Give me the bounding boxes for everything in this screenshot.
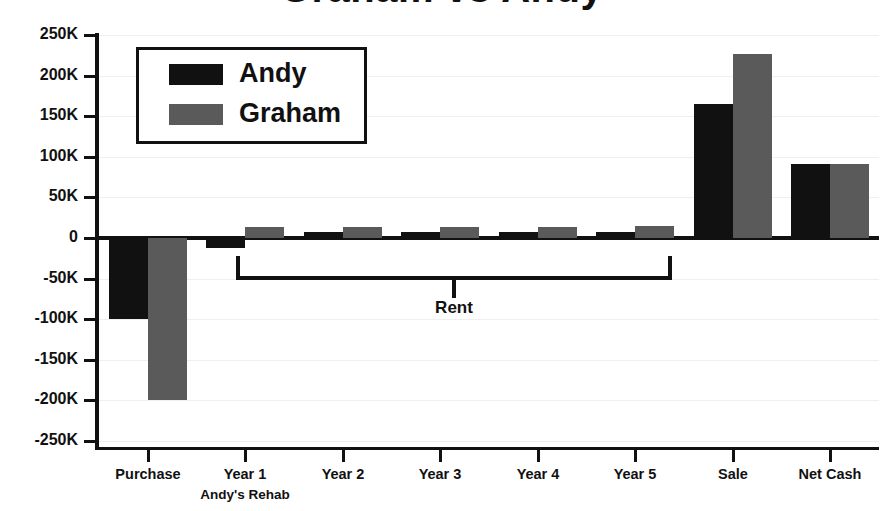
x-axis-label-year-3: Year 3 <box>419 466 462 482</box>
legend-swatch-icon-graham <box>169 104 223 125</box>
x-axis-tick <box>244 447 247 462</box>
x-axis-tick <box>634 447 637 462</box>
legend-label-graham: Graham <box>239 98 341 129</box>
x-axis-label-year-4: Year 4 <box>517 466 560 482</box>
x-axis-tick <box>829 447 832 462</box>
rent-bracket-stem <box>452 276 456 298</box>
rent-annotation-label: Rent <box>435 298 473 318</box>
x-axis-tick <box>537 447 540 462</box>
y-axis-tick-label: -50K <box>2 269 78 287</box>
bar-andy-purchase <box>109 238 148 319</box>
x-axis-tick <box>147 447 150 462</box>
bar-graham-year-2 <box>343 227 382 238</box>
bar-andy-year-3 <box>401 232 440 238</box>
x-axis-label-year-2: Year 2 <box>322 466 365 482</box>
y-axis-line <box>95 33 99 450</box>
gridline <box>99 400 879 401</box>
y-axis-tick-label: 100K <box>2 147 78 165</box>
bar-andy-net-cash <box>791 164 830 238</box>
y-axis-tick-label: -200K <box>2 390 78 408</box>
bar-graham-year-1 <box>245 227 284 238</box>
x-axis-tick <box>439 447 442 462</box>
gridline <box>99 35 879 36</box>
bar-graham-year-4 <box>538 227 577 238</box>
y-axis-tick-label: 0 <box>2 228 78 246</box>
y-axis-tick-label: -100K <box>2 309 78 327</box>
y-axis-tick-label: -250K <box>2 431 78 449</box>
bar-chart: Graham vs Andy 250K200K150K100K50K0-50K-… <box>0 0 883 511</box>
legend-swatch-icon-andy <box>169 64 223 85</box>
legend-label-andy: Andy <box>239 58 307 89</box>
chart-title: Graham vs Andy <box>0 0 883 11</box>
bar-graham-purchase <box>148 238 187 400</box>
gridline <box>99 441 879 442</box>
x-axis-line <box>95 447 879 450</box>
bar-andy-year-5 <box>596 232 635 238</box>
gridline <box>99 319 879 320</box>
gridline <box>99 360 879 361</box>
bar-graham-sale <box>733 54 772 238</box>
y-axis-tick-label: 250K <box>2 25 78 43</box>
y-axis-tick-label: 200K <box>2 66 78 84</box>
y-axis-tick-label: -150K <box>2 350 78 368</box>
bar-andy-year-4 <box>499 232 538 238</box>
bar-graham-year-3 <box>440 227 479 238</box>
x-axis-label-purchase: Purchase <box>115 466 180 482</box>
bar-graham-net-cash <box>830 164 869 238</box>
bar-andy-sale <box>694 104 733 238</box>
x-axis-sublabel: Andy's Rehab <box>200 487 289 502</box>
y-axis-tick-label: 50K <box>2 187 78 205</box>
x-axis-tick <box>732 447 735 462</box>
chart-legend: Andy Graham <box>136 47 367 144</box>
bar-andy-year-2 <box>304 232 343 238</box>
x-axis-label-year-1: Year 1 <box>224 466 267 482</box>
bar-graham-year-5 <box>635 226 674 238</box>
x-axis-tick <box>342 447 345 462</box>
x-axis-label-net-cash: Net Cash <box>799 466 862 482</box>
bar-andy-year-1 <box>206 238 245 248</box>
y-axis-tick-label: 150K <box>2 106 78 124</box>
x-axis-label-year-5: Year 5 <box>614 466 657 482</box>
x-axis-label-sale: Sale <box>718 466 748 482</box>
